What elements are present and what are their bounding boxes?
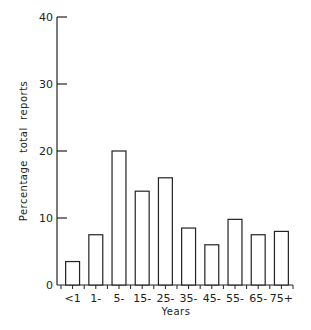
- x-tick-label: 55-: [226, 292, 244, 305]
- y-tick-label: 10: [39, 212, 53, 225]
- bar-3: [135, 191, 149, 285]
- x-tick-label: 5-: [114, 292, 125, 305]
- bar-chart: 010203040 <11-5-15-25-35-45-55-65-75+ Ye…: [0, 0, 311, 330]
- x-tick-label: 25-: [156, 292, 174, 305]
- bar-5: [182, 228, 196, 285]
- y-tick-label: 30: [39, 78, 53, 91]
- y-tick-label: 20: [39, 145, 53, 158]
- bar-6: [205, 245, 219, 285]
- bar-2: [112, 151, 126, 285]
- x-tick-label: <1: [64, 292, 80, 305]
- bar-8: [251, 235, 265, 285]
- y-axis-label: Percentage total reports: [18, 81, 29, 222]
- x-axis-label: Years: [161, 306, 191, 317]
- bar-4: [158, 178, 172, 285]
- y-tick-label: 40: [39, 11, 53, 24]
- bar-7: [228, 219, 242, 285]
- x-tick-label: 1-: [90, 292, 101, 305]
- x-tick-label: 65-: [249, 292, 267, 305]
- x-tick-label: 45-: [203, 292, 221, 305]
- bar-1: [89, 235, 103, 285]
- x-tick-label: 75+: [270, 292, 293, 305]
- x-tick-label: 15-: [133, 292, 151, 305]
- bar-9: [274, 231, 288, 285]
- bar-0: [66, 262, 80, 285]
- y-tick-label: 0: [46, 279, 53, 292]
- x-ticks: <11-5-15-25-35-45-55-65-75+: [61, 285, 293, 305]
- y-ticks: 010203040: [39, 11, 67, 292]
- x-tick-label: 35-: [180, 292, 198, 305]
- bars: [66, 151, 289, 285]
